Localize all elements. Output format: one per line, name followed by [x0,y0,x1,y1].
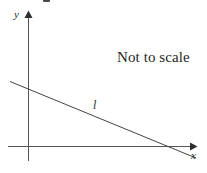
y-axis-label: y [14,9,19,20]
diagram-canvas [0,0,207,173]
y-axis-arrowhead-icon [25,11,33,19]
line-l-label: l [93,99,96,111]
figure-container: y x l Not to scale [0,0,207,173]
not-to-scale-note: Not to scale [117,50,190,65]
x-axis-label: x [191,150,196,161]
top-edge-artifact-mark [43,0,50,2]
